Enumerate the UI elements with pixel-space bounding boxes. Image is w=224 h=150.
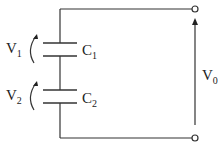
v2-curved-arrow xyxy=(30,83,36,110)
v2-label: V2 xyxy=(6,87,22,106)
top-terminal xyxy=(192,6,198,12)
circuit-diagram: V1 C1 V2 C2 V0 xyxy=(0,0,224,150)
v2-arrowhead-icon xyxy=(33,81,38,86)
v0-arrowhead-icon xyxy=(192,18,198,25)
v1-curved-arrow xyxy=(30,36,36,63)
bottom-terminal xyxy=(192,135,198,141)
c2-label: C2 xyxy=(82,90,97,109)
c1-label: C1 xyxy=(82,42,97,61)
v1-arrowhead-icon xyxy=(33,34,38,39)
v1-label: V1 xyxy=(6,40,22,59)
v0-label: V0 xyxy=(202,67,218,86)
